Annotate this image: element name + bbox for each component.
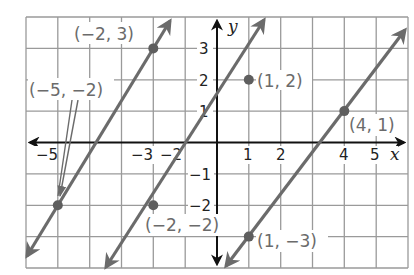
x-axis-label: x	[390, 144, 400, 164]
point-label: (−5, −2)	[29, 80, 103, 100]
y-tick-label: 3	[199, 40, 209, 58]
y-axis-label: y	[227, 16, 238, 36]
point-a1	[148, 43, 158, 53]
x-tick-label: −3	[131, 146, 153, 164]
leader-arrow	[60, 100, 78, 196]
x-tick-label: 5	[370, 146, 380, 164]
coordinate-graph: −5 −3 −2 1 2 4 5 x 3 2 1 −1 −2 y (−2, 3)…	[0, 0, 414, 275]
point-c2	[244, 232, 254, 242]
x-tick-label: 4	[339, 146, 349, 164]
point-b1	[244, 75, 254, 85]
point-c1	[339, 106, 349, 116]
x-tick-label: −5	[36, 146, 58, 164]
y-tick-label: −1	[189, 166, 211, 184]
point-label: (1, −3)	[257, 231, 317, 251]
point-a2	[53, 200, 63, 210]
x-tick-label: 2	[276, 146, 286, 164]
point-label: (−2, −2)	[145, 215, 219, 235]
y-tick-label: −2	[189, 197, 211, 215]
point-label: (4, 1)	[349, 115, 395, 135]
point-b2	[148, 200, 158, 210]
point-label: (1, 2)	[257, 71, 303, 91]
leader-arrow	[58, 100, 72, 196]
y-tick-label: 2	[199, 72, 209, 90]
x-tick-label: 1	[243, 146, 253, 164]
point-label: (−2, 3)	[74, 24, 134, 44]
